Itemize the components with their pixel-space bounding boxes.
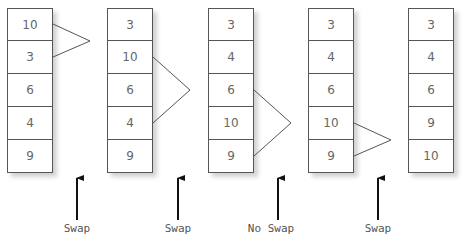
cell: 10	[408, 140, 454, 173]
cell: 9	[408, 107, 454, 140]
cell: 4	[7, 107, 53, 140]
compare-bracket-2	[153, 57, 190, 123]
cell: 3	[7, 41, 53, 74]
cell: 3	[308, 8, 354, 41]
cell: 3	[208, 8, 254, 41]
cell: 6	[408, 74, 454, 107]
step-label: Swap	[365, 222, 392, 235]
cell: 10	[308, 107, 354, 140]
cell: 4	[308, 41, 354, 74]
compare-bracket-4	[354, 123, 391, 156]
cell: 6	[308, 74, 354, 107]
cell: 6	[7, 74, 53, 107]
cell: 6	[208, 74, 254, 107]
step-label: Swap	[165, 222, 192, 235]
column-5: 3 4 6 9 10	[408, 8, 454, 173]
column-4: 3 4 6 10 9	[308, 8, 354, 173]
cell: 9	[308, 140, 354, 173]
cell: 3	[408, 8, 454, 41]
cell: 9	[107, 140, 153, 173]
compare-bracket-1	[53, 24, 90, 57]
step-label: Swap	[64, 222, 91, 235]
cell: 10	[208, 107, 254, 140]
cell: 10	[7, 8, 53, 41]
column-1: 10 3 6 4 9	[7, 8, 53, 173]
cell: 6	[107, 74, 153, 107]
compare-bracket-3	[254, 90, 291, 156]
cell: 4	[107, 107, 153, 140]
cell: 4	[408, 41, 454, 74]
column-2: 3 10 6 4 9	[107, 8, 153, 173]
cell: 4	[208, 41, 254, 74]
step-label: No Swap	[248, 222, 294, 235]
cell: 10	[107, 41, 153, 74]
column-3: 3 4 6 10 9	[208, 8, 254, 173]
cell: 9	[7, 140, 53, 173]
cell: 9	[208, 140, 254, 173]
cell: 3	[107, 8, 153, 41]
